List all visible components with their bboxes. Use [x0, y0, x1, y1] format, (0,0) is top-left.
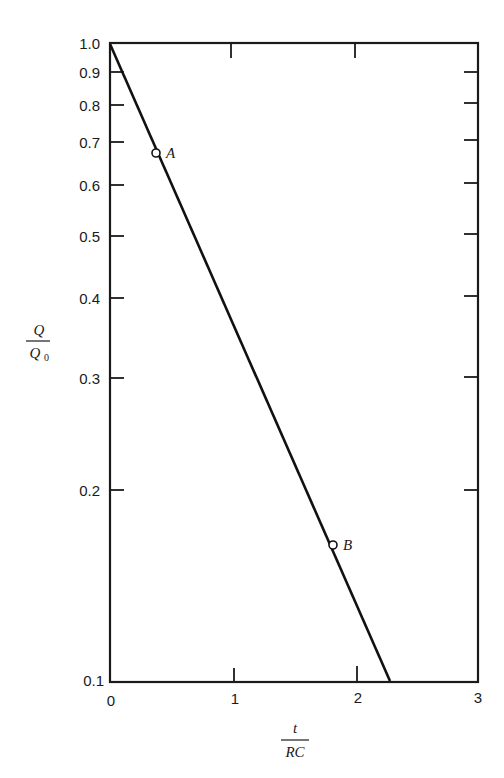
y-axis-left-ticks: [110, 72, 124, 490]
x-axis-top-ticks: [231, 43, 355, 58]
y-axis-right-ticks: [464, 72, 478, 490]
y-tick-label: 0.7: [79, 134, 100, 151]
x-axis-denominator: RC: [284, 744, 305, 760]
x-axis-numerator: t: [293, 720, 298, 736]
y-tick-label: 0.1: [83, 672, 104, 689]
x-tick-label: 1: [231, 690, 239, 707]
x-axis-title: t RC: [281, 720, 309, 760]
semilog-decay-chart: 1.0 0.9 0.8 0.7 0.6 0.5 0.4 0.3 0.2 0.1 …: [0, 0, 504, 778]
y-tick-label: 0.8: [79, 97, 100, 114]
y-axis-title: Q Q 0: [26, 322, 50, 363]
point-b-label: B: [343, 537, 352, 553]
point-a-marker: [152, 149, 160, 157]
x-tick-label: 3: [474, 689, 482, 706]
x-tick-labels: 0 1 2 3: [107, 689, 482, 709]
decay-line: [110, 44, 390, 681]
y-axis-denominator: Q: [30, 345, 41, 361]
y-tick-label: 1.0: [79, 35, 100, 52]
plot-frame: [110, 43, 478, 682]
y-tick-label: 0.9: [79, 64, 100, 81]
x-axis-bottom-ticks: [234, 666, 357, 682]
point-a-label: A: [165, 145, 176, 161]
point-b-marker: [329, 541, 337, 549]
y-tick-labels: 1.0 0.9 0.8 0.7 0.6 0.5 0.4 0.3 0.2 0.1: [79, 35, 104, 689]
y-axis-denominator-subscript: 0: [44, 352, 49, 363]
y-tick-label: 0.5: [79, 228, 100, 245]
x-tick-label: 2: [354, 689, 362, 706]
y-tick-label: 0.6: [79, 177, 100, 194]
y-tick-label: 0.3: [79, 370, 100, 387]
y-tick-label: 0.2: [79, 482, 100, 499]
y-tick-label: 0.4: [79, 290, 100, 307]
x-tick-label: 0: [107, 692, 115, 709]
y-axis-numerator: Q: [34, 322, 45, 338]
